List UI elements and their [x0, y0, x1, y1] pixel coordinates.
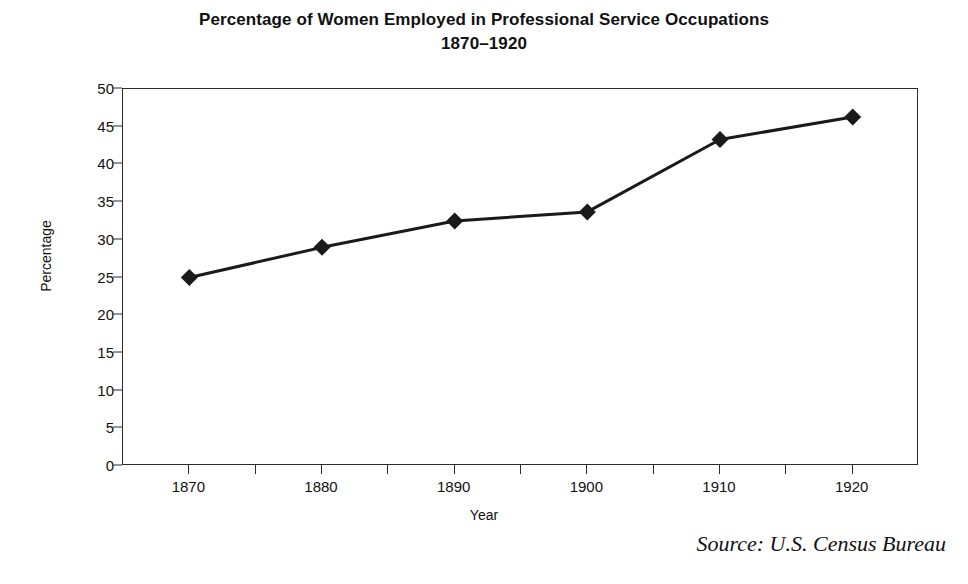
- x-axis-tick-minor: [255, 465, 256, 474]
- x-axis-tick-label: 1910: [702, 478, 735, 495]
- x-axis-ticks: [122, 465, 918, 475]
- data-point-marker: [712, 131, 729, 148]
- x-axis-title: Year: [0, 507, 968, 523]
- x-axis-tick: [188, 465, 189, 474]
- y-axis-tick: [113, 276, 122, 277]
- y-axis-tick: [113, 389, 122, 390]
- y-axis-tick: [113, 163, 122, 164]
- data-point-marker: [844, 108, 861, 125]
- y-axis-tick: [113, 314, 122, 315]
- y-axis-tick-labels: 05101520253035404550: [70, 88, 114, 465]
- page-title: Percentage of Women Employed in Professi…: [0, 8, 968, 32]
- source-note: Source: U.S. Census Bureau: [697, 531, 947, 557]
- x-axis-tick: [852, 465, 853, 474]
- data-point-marker: [181, 269, 198, 286]
- x-axis-tick: [719, 465, 720, 474]
- y-axis-tick: [113, 238, 122, 239]
- x-axis-tick-minor: [653, 465, 654, 474]
- x-axis-tick: [321, 465, 322, 474]
- x-axis-tick-label: 1880: [304, 478, 337, 495]
- x-axis-tick: [454, 465, 455, 474]
- data-line: [189, 117, 852, 278]
- x-axis-tick-label: 1920: [835, 478, 868, 495]
- y-axis-title: Percentage: [38, 196, 54, 316]
- y-axis-tick: [113, 88, 122, 89]
- plot-area: [122, 88, 918, 465]
- data-point-marker: [314, 239, 331, 256]
- x-axis-tick-minor: [785, 465, 786, 474]
- y-axis-tick: [113, 351, 122, 352]
- chart-figure: Percentage of Women Employed in Professi…: [0, 0, 968, 584]
- x-axis-tick-minor: [387, 465, 388, 474]
- y-axis-tick: [113, 201, 122, 202]
- chart-subtitle: 1870–1920: [0, 32, 968, 56]
- x-axis-tick-label: 1890: [437, 478, 470, 495]
- y-axis-tick: [113, 465, 122, 466]
- x-axis-tick-label: 1900: [570, 478, 603, 495]
- x-axis-tick-labels: 187018801890190019101920: [122, 478, 918, 504]
- data-markers: [181, 108, 861, 286]
- y-axis-tick: [113, 125, 122, 126]
- y-axis-tick: [113, 427, 122, 428]
- chart-title-block: Percentage of Women Employed in Professi…: [0, 8, 968, 56]
- data-point-marker: [446, 212, 463, 229]
- data-point-marker: [579, 203, 596, 220]
- x-axis-tick-minor: [520, 465, 521, 474]
- line-chart-svg: [123, 89, 919, 466]
- x-axis-tick-label: 1870: [172, 478, 205, 495]
- y-axis-ticks: [112, 88, 122, 465]
- x-axis-tick: [586, 465, 587, 474]
